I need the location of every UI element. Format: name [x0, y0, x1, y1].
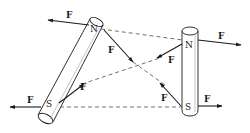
- tilted-south-label: S: [46, 99, 52, 109]
- force-n1-left-arrow: [48, 20, 89, 25]
- force-label-n1-left: F: [66, 10, 73, 20]
- vertical-north-label: N: [185, 40, 193, 50]
- tilted-magnet-shade: [50, 28, 99, 119]
- vertical-south-label: S: [185, 102, 191, 112]
- force-label-s1-toward-n2: F: [80, 82, 87, 92]
- force-label-s2-right: F: [204, 94, 211, 104]
- force-label-n1-toward-s2: F: [108, 45, 115, 55]
- force-label-s2-toward-n1: F: [161, 93, 168, 103]
- tilted-north-label: N: [90, 24, 98, 34]
- vertical-magnet-top-cap: [182, 27, 198, 35]
- force-label-n2-toward-s1: F: [168, 55, 175, 65]
- force-label-n2-right: F: [218, 31, 225, 41]
- magnet-force-diagram: N S N S F F F F F F F F: [0, 0, 250, 133]
- force-label-s1-left: F: [27, 95, 34, 105]
- dashed-s1-n2: [82, 58, 160, 84]
- dashed-n1-n2: [101, 29, 183, 40]
